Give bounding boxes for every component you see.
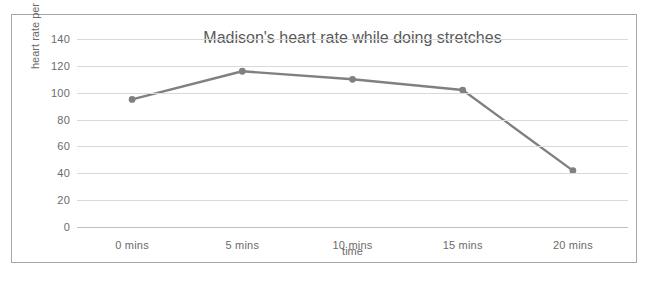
gridline <box>77 173 628 174</box>
y-axis-tick-label: 120 <box>51 60 70 72</box>
gridline <box>77 66 628 67</box>
y-axis-tick-label: 60 <box>57 140 70 152</box>
y-axis-tick-label: 20 <box>57 194 70 206</box>
x-axis-title: time <box>77 245 628 257</box>
y-axis-tick-label: 40 <box>57 167 70 179</box>
gridline <box>77 200 628 201</box>
gridline <box>77 146 628 147</box>
y-axis-tick-label: 100 <box>51 87 70 99</box>
data-point <box>349 76 356 83</box>
gridline <box>77 93 628 94</box>
data-point <box>129 96 136 103</box>
data-point <box>239 68 246 75</box>
gridline <box>77 39 628 40</box>
y-axis-tick-label: 140 <box>51 33 70 45</box>
gridline <box>77 120 628 121</box>
y-axis-tick-label: 80 <box>57 114 70 126</box>
series-polyline <box>132 71 573 170</box>
plot-area: 020406080100120140 <box>77 39 628 227</box>
chart-frame: Madison's heart rate while doing stretch… <box>11 14 637 263</box>
line-series <box>77 39 628 227</box>
gridline <box>77 227 628 228</box>
y-axis-tick-label: 0 <box>64 221 70 233</box>
y-axis-title: heart rate per minute <box>29 0 41 69</box>
